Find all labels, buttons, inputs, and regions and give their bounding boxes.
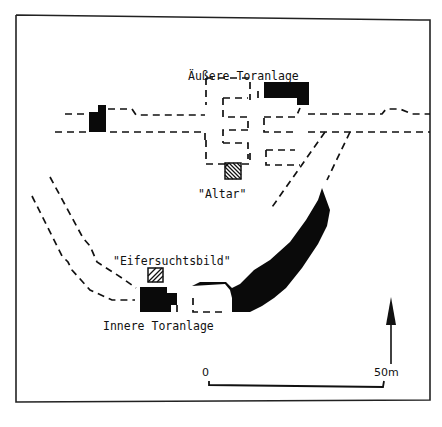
label-altar: "Altar": [198, 187, 246, 201]
label-outer-gate: Äußere Toranlage: [188, 68, 299, 83]
street-line-inner: [270, 132, 325, 210]
wall-block-west: [89, 105, 106, 132]
jealousy-image-hatched-block: [148, 268, 163, 282]
road-west-outer: [32, 196, 135, 300]
label-eifersuchtsbild: "Eifersuchtsbild": [113, 254, 231, 268]
scale-bar: 0 50m: [202, 366, 399, 387]
inner-gate-complex: [140, 188, 330, 312]
north-arrow-icon: [386, 297, 396, 364]
label-inner-gate: Innere Toranlage: [103, 319, 214, 333]
wall-block-outer-gate: [264, 82, 309, 105]
altar-hatched-block: [225, 163, 241, 179]
outer-gate-complex: [55, 78, 430, 179]
scale-end-label: 50m: [374, 366, 399, 379]
wall-block-inner-gate-east: [192, 188, 330, 312]
street-line-outer: [327, 132, 350, 180]
wall-block-inner-gate-west: [140, 287, 177, 312]
site-plan: Äußere Toranlage "Altar" "Eifersuchtsbil…: [0, 0, 442, 427]
scale-start-label: 0: [202, 366, 209, 379]
road-west-inner: [50, 177, 136, 288]
